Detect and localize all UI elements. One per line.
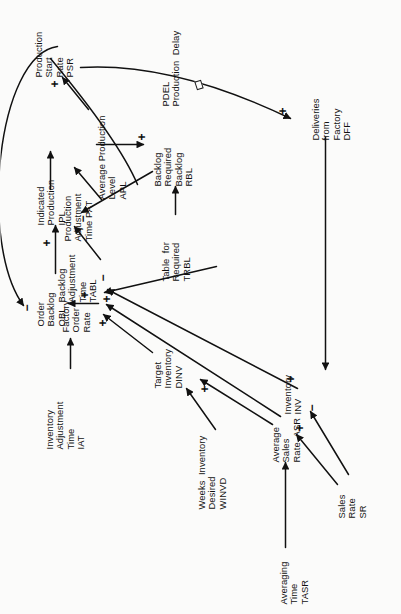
node-inventory-adjustment-time-iat: Inventory Adjustment Time IAT: [44, 369, 86, 449]
node-deliveries-from-factory-dff: Deliveries from Factory DFF: [310, 78, 352, 140]
sign-factory-order-rate-to-order-backlog-positive: +: [78, 291, 90, 298]
sign-indicated-production-negative: −: [76, 215, 88, 222]
link-sales-rate-to-inventory: [310, 411, 348, 474]
sign-order-backlog-to-indicated-production-positive: +: [40, 239, 52, 246]
node-weeks-inventory-desired-winvd: Weeks Inventory Desired WINVD: [196, 393, 227, 509]
node-pdel-production-delay: PDEL Production Delay: [160, 0, 181, 106]
sign-target-inventory-positive: +: [198, 385, 210, 392]
causal-loop-diagram-figure: Inventory Adjustment Time IAT Backlog Ad…: [0, 0, 401, 614]
node-average-production-level-apl: Average Production Level APL: [96, 81, 127, 199]
sign-dff-inflow-positive: +: [276, 107, 288, 114]
node-table-for-required-backlog-trbl: Table for Required TRBL: [160, 211, 191, 281]
sign-factory-order-rate-input-positive-mid: +: [100, 295, 112, 302]
node-required-backlog-rbl: Backlog Required Backlog RBL: [152, 122, 194, 186]
sign-factory-order-rate-input-negative: −: [96, 274, 108, 281]
node-production-start-rate-psr: Production Start Rate PSR: [33, 13, 75, 77]
node-inventory-inv: Inventory INV: [282, 352, 303, 414]
sign-required-backlog-positive: +: [135, 133, 147, 140]
node-sales-rate-sr: Sales Rate SR: [336, 474, 367, 518]
sign-inventory-positive: +: [284, 375, 296, 382]
link-sales-rate-to-average-sales-rate: [296, 434, 337, 484]
diagram-canvas: Inventory Adjustment Time IAT Backlog Ad…: [0, 0, 401, 614]
node-factory-order-rate: Factory Order Rate: [60, 280, 91, 332]
link-average-production-level-to-production-start-rate: [62, 77, 88, 109]
node-target-inventory-dinv: Target Inventory DINV: [152, 328, 183, 388]
link-asr-to-factory-order-rate: [106, 304, 280, 416]
sign-average-sales-rate-positive: +: [293, 424, 305, 431]
node-averaging-time-tasr: Averaging Time TASR: [278, 542, 309, 604]
sign-inventory-negative: −: [305, 404, 317, 411]
node-indicated-production-ipl: Indicated Production IPL: [35, 165, 66, 225]
sign-average-production-level-to-production-start-rate-positive: +: [48, 80, 60, 87]
sign-order-backlog-feedback-negative: −: [20, 304, 32, 311]
link-target-inventory-to-factory-order-rate: [103, 314, 152, 352]
sign-factory-order-rate-input-positive-left: +: [96, 319, 108, 326]
